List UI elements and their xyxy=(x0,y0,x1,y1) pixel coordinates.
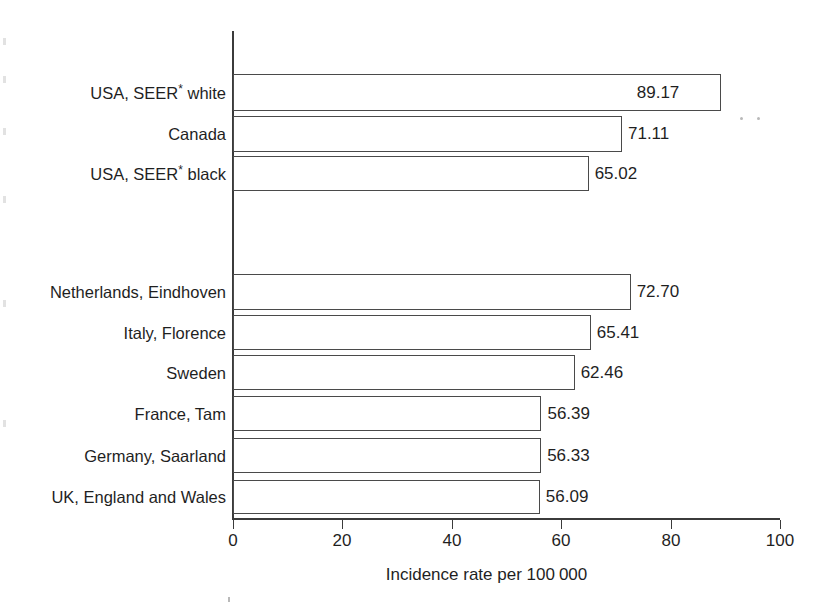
bar-value-label: 65.02 xyxy=(595,165,638,182)
bar xyxy=(233,156,589,191)
bar xyxy=(233,274,631,310)
bar-value-label: 56.39 xyxy=(547,405,590,422)
scan-artifact xyxy=(228,597,230,602)
x-axis-tick xyxy=(780,520,781,529)
bar-value-label: 89.17 xyxy=(637,84,680,101)
category-label: Germany, Saarland xyxy=(0,448,226,465)
x-axis-title: Incidence rate per 100000 xyxy=(0,565,827,585)
bar xyxy=(233,116,622,152)
x-axis-tick xyxy=(452,520,453,529)
bar-value-label: 72.70 xyxy=(637,283,680,300)
bar-value-label: 56.33 xyxy=(547,447,590,464)
x-axis-title-prefix: Incidence rate per 100 xyxy=(386,565,555,584)
category-label: Netherlands, Eindhoven xyxy=(0,284,226,301)
x-axis-line xyxy=(232,518,780,520)
category-label: USA, SEER* black xyxy=(0,166,226,183)
bar xyxy=(233,438,541,473)
scan-artifact xyxy=(757,117,760,120)
bar-value-label: 71.11 xyxy=(628,125,669,142)
x-axis-title-suffix: 000 xyxy=(559,565,587,584)
x-axis-tick xyxy=(233,520,234,529)
x-axis-tick-label: 80 xyxy=(662,531,681,551)
x-axis-tick xyxy=(561,520,562,529)
scan-artifact xyxy=(3,300,6,307)
category-label: Italy, Florence xyxy=(0,325,226,342)
bar xyxy=(233,396,541,431)
x-axis-tick xyxy=(342,520,343,529)
bar-value-label: 65.41 xyxy=(597,324,640,341)
scan-artifact xyxy=(3,196,6,203)
category-label: France, Tam xyxy=(0,406,226,423)
bar xyxy=(233,480,540,514)
x-axis-tick-label: 100 xyxy=(766,531,794,551)
x-axis-tick-label: 20 xyxy=(333,531,352,551)
category-label: Sweden xyxy=(0,365,226,382)
bar-value-label: 56.09 xyxy=(546,488,589,505)
scan-artifact xyxy=(740,117,743,120)
x-axis-tick-label: 40 xyxy=(443,531,462,551)
bar-value-label: 62.46 xyxy=(581,364,624,381)
bar-chart-figure: USA, SEER* white89.17Canada71.11USA, SEE… xyxy=(0,0,827,615)
scan-artifact xyxy=(3,76,6,83)
x-axis-tick-label: 0 xyxy=(228,531,237,551)
category-label: USA, SEER* white xyxy=(0,85,226,102)
scan-artifact xyxy=(3,38,6,45)
category-label: UK, England and Wales xyxy=(0,489,226,506)
x-axis-tick xyxy=(671,520,672,529)
category-label: Canada xyxy=(0,126,226,143)
bar xyxy=(233,315,591,350)
x-axis-tick-label: 60 xyxy=(552,531,571,551)
bar xyxy=(233,355,575,390)
